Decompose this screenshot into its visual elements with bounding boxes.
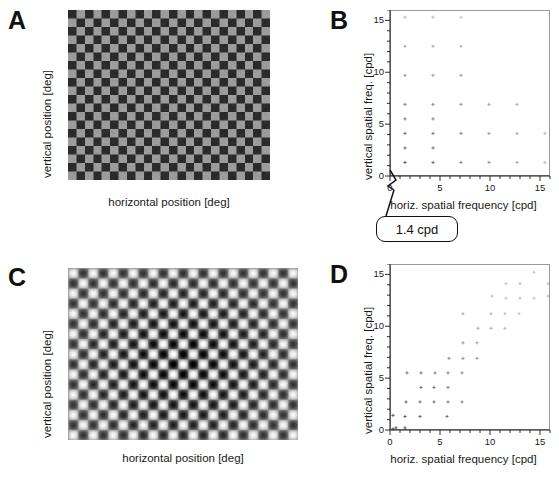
y-tick-label: 10 bbox=[364, 320, 384, 331]
y-tick-label: 10 bbox=[364, 66, 384, 77]
callout-box: 1.4 cpd bbox=[376, 216, 458, 242]
checkerboard-stimulus-a bbox=[68, 10, 270, 180]
x-tick-label: 0 bbox=[380, 182, 400, 193]
x-tick-label: 5 bbox=[430, 436, 450, 447]
checkerboard-canvas-a bbox=[68, 10, 270, 180]
panel-c-x-axis-label: horizontal position [deg] bbox=[68, 452, 298, 464]
y-tick-label: 0 bbox=[364, 170, 384, 181]
axis-lines bbox=[390, 10, 550, 176]
checkerboard-canvas-c bbox=[68, 268, 298, 440]
y-tick-label: 0 bbox=[364, 424, 384, 435]
x-tick-label: 10 bbox=[480, 182, 500, 193]
tick-marks bbox=[385, 264, 550, 435]
x-tick-label: 0 bbox=[380, 436, 400, 447]
y-tick-label: 15 bbox=[364, 268, 384, 279]
axis-lines bbox=[390, 264, 550, 430]
panel-c-y-axis-label: vertical position [deg] bbox=[41, 330, 53, 438]
callout-pointer bbox=[386, 170, 396, 216]
panel-d-x-axis-label: horiz. spatial frequency [cpd] bbox=[368, 453, 559, 465]
panel-letter-b: B bbox=[330, 8, 348, 33]
panel-letter-d: D bbox=[330, 262, 348, 287]
x-tick-label: 10 bbox=[480, 436, 500, 447]
x-tick-label: 5 bbox=[430, 182, 450, 193]
panel-a-x-axis-label: horizontal position [deg] bbox=[68, 196, 270, 208]
y-tick-label: 5 bbox=[364, 372, 384, 383]
panel-letter-a: A bbox=[8, 8, 26, 33]
y-tick-label: 5 bbox=[364, 118, 384, 129]
tick-marks bbox=[385, 10, 550, 181]
panel-letter-c: C bbox=[8, 265, 26, 290]
blurred-checkerboard-stimulus-c bbox=[68, 268, 298, 440]
figure-root: { "figure": { "panels": [ { "id": "A", "… bbox=[0, 0, 559, 478]
callout-text: 1.4 cpd bbox=[396, 222, 439, 237]
panel-a-y-axis-label: vertical position [deg] bbox=[41, 70, 53, 178]
x-tick-label: 15 bbox=[530, 182, 550, 193]
x-tick-label: 15 bbox=[530, 436, 550, 447]
axis-ticks-d bbox=[378, 264, 556, 450]
y-tick-label: 15 bbox=[364, 14, 384, 25]
